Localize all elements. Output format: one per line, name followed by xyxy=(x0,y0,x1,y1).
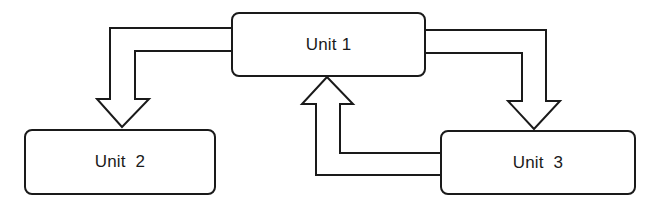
unit-2-box: Unit 2 xyxy=(24,129,216,195)
unit-3-box: Unit 3 xyxy=(440,130,636,195)
unit-1-label: Unit 1 xyxy=(306,35,352,55)
unit-1-box: Unit 1 xyxy=(231,12,426,77)
block-diagram: Unit 1 Unit 2 Unit 3 xyxy=(0,0,663,203)
arrow-unit1-to-unit2 xyxy=(97,28,232,127)
arrow-unit1-to-unit3 xyxy=(424,30,560,129)
unit-3-label: Unit 3 xyxy=(513,153,564,173)
unit-2-label: Unit 2 xyxy=(95,152,146,172)
arrow-unit3-to-unit1 xyxy=(302,77,441,175)
